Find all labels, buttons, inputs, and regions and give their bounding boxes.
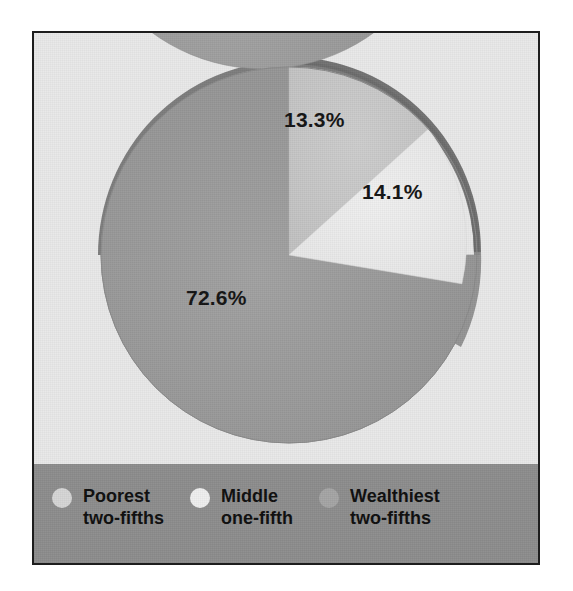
legend-label-line-2: one-fifth xyxy=(221,508,293,530)
circle-swatch-icon xyxy=(52,488,72,508)
pie-chart: 13.3% 14.1% 72.6% xyxy=(34,33,538,464)
circle-swatch-icon xyxy=(319,488,339,508)
legend-item-poorest-two-fifths[interactable]: Poorest two-fifths xyxy=(52,486,164,530)
legend-label-line-2: two-fifths xyxy=(83,508,164,530)
circle-swatch-icon xyxy=(190,488,210,508)
legend-label-line-2: two-fifths xyxy=(350,508,440,530)
legend-label-line-1: Wealthiest xyxy=(350,486,440,508)
legend-label-line-1: Poorest xyxy=(83,486,164,508)
legend-label-middle-one-fifth: Middle one-fifth xyxy=(221,486,293,530)
pie-chart-svg xyxy=(34,33,540,464)
pie-label-wealthiest-two-fifths: 14.1% xyxy=(362,180,423,204)
chart-figure-frame: 13.3% 14.1% 72.6% Poorest two-fifths Mid… xyxy=(32,31,540,565)
legend-label-line-1: Middle xyxy=(221,486,293,508)
legend-item-wealthiest-two-fifths[interactable]: Wealthiest two-fifths xyxy=(319,486,440,530)
pie-chart-plot-area: 13.3% 14.1% 72.6% xyxy=(34,33,538,464)
legend-item-middle-one-fifth[interactable]: Middle one-fifth xyxy=(190,486,293,530)
pie-label-middle-one-fifth: 13.3% xyxy=(284,108,345,132)
legend-label-poorest-two-fifths: Poorest two-fifths xyxy=(83,486,164,530)
chart-legend: Poorest two-fifths Middle one-fifth Weal… xyxy=(34,464,538,563)
legend-label-wealthiest-two-fifths: Wealthiest two-fifths xyxy=(350,486,440,530)
pie-label-poorest-two-fifths: 72.6% xyxy=(186,286,247,310)
